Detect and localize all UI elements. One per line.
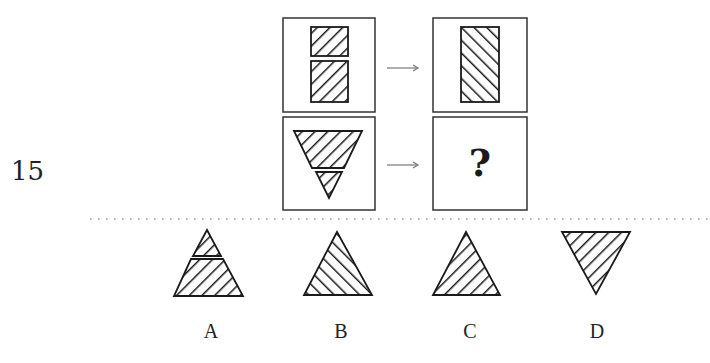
option-d-label[interactable]: D: [590, 320, 604, 343]
small-rectangle-top: [311, 27, 348, 56]
option-b-label[interactable]: B: [334, 320, 347, 343]
option-a-label[interactable]: A: [204, 320, 218, 343]
tall-rectangle: [461, 27, 499, 102]
option-c-figure[interactable]: [433, 232, 500, 295]
unknown-answer-mark: ?: [469, 140, 491, 185]
option-d-figure[interactable]: [562, 232, 630, 294]
question-number: 15: [11, 156, 44, 186]
right-arrow-icon: [387, 65, 418, 71]
row1-right-box: [433, 18, 527, 112]
row2-left-box: [283, 117, 375, 210]
option-b-figure[interactable]: [304, 232, 372, 295]
puzzle-figure: [0, 0, 710, 363]
row1-left-box: [283, 18, 375, 112]
puzzle-stage: 15 ? A B C D: [0, 0, 710, 363]
option-c-label[interactable]: C: [463, 320, 476, 343]
right-arrow-icon: [387, 162, 418, 168]
option-a-figure[interactable]: [174, 230, 243, 296]
rectangle-bottom: [311, 61, 348, 102]
